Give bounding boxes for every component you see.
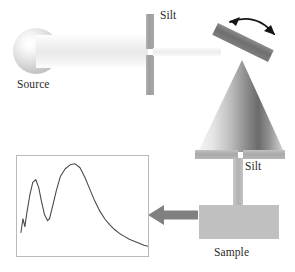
entrance-slit-upper-bar [146,14,154,49]
sample-block [199,205,279,239]
exit-slit-label: Silt [245,160,261,172]
incident-light-beam [36,35,148,68]
exit-slit-right-bar [243,150,285,159]
exit-slit-left-bar [195,150,238,159]
spectrophotometer-diagram: Silt Source Silt Sample [0,0,295,272]
entrance-slit-lower-bar [146,55,154,95]
entrance-slit-label: Silt [160,9,176,21]
signal-output-arrow [148,203,198,227]
spectrum-curve [17,156,148,256]
rotation-double-arrow [218,10,284,44]
collimated-beam [153,48,221,56]
beam-column [233,158,243,207]
sample-label: Sample [214,246,249,258]
source-label: Source [17,78,50,90]
spectrum-plot [16,155,149,257]
dispersed-light-cone [196,60,284,152]
